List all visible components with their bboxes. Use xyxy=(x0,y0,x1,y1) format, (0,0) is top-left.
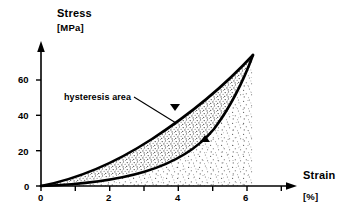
under-curve-fill xyxy=(35,45,265,195)
x-axis-title: Strain xyxy=(303,170,335,181)
plot-canvas xyxy=(0,0,353,219)
x-tick-label: 2 xyxy=(106,193,111,203)
y-axis xyxy=(37,41,45,186)
loading-direction-arrow-icon xyxy=(170,104,180,111)
y-tick-label: 60 xyxy=(18,75,29,85)
y-axis-unit: [MPa] xyxy=(57,23,84,33)
x-tick-label: 6 xyxy=(243,193,248,203)
y-tick-label: 20 xyxy=(18,147,29,157)
stress-strain-hysteresis-chart: Stress [MPa] Strain [%] 0 20 40 60 0 2 4… xyxy=(0,0,353,219)
x-tick-label: 4 xyxy=(175,193,180,203)
hysteresis-area-annotation: hysteresis area xyxy=(64,93,131,102)
y-tick-label: 40 xyxy=(18,111,29,121)
y-tick-label: 0 xyxy=(24,182,29,192)
x-tick-label: 0 xyxy=(38,193,43,203)
y-axis-title: Stress xyxy=(57,8,92,19)
x-axis-unit: [%] xyxy=(303,192,318,202)
hysteresis-leader-line xyxy=(134,97,176,123)
